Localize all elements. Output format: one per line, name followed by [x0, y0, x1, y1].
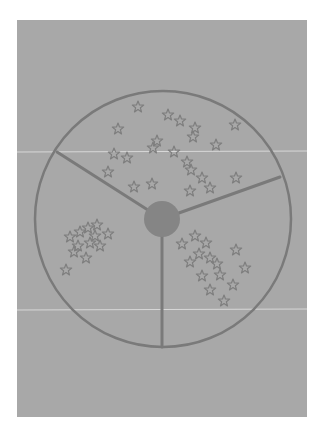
star-icon	[229, 119, 240, 130]
star-icon	[218, 295, 229, 306]
star-icon	[94, 240, 105, 251]
star-icon	[146, 178, 157, 189]
star-icon	[151, 135, 162, 146]
sector-lower-left-stars	[60, 219, 113, 275]
center-hub	[144, 201, 180, 237]
sector-diagram	[0, 0, 329, 436]
spoke-upper-left	[57, 152, 162, 219]
star-icon	[189, 230, 200, 241]
star-icon	[204, 252, 215, 263]
star-icon	[230, 244, 241, 255]
star-icon	[187, 131, 198, 142]
star-icon	[121, 152, 132, 163]
star-icon	[176, 238, 187, 249]
star-icon	[196, 270, 207, 281]
star-icon	[204, 182, 215, 193]
star-icon	[132, 101, 143, 112]
star-icon	[200, 237, 211, 248]
star-icon	[174, 115, 185, 126]
star-icon	[184, 256, 195, 267]
star-icon	[102, 228, 113, 239]
star-icon	[112, 123, 123, 134]
star-icon	[128, 181, 139, 192]
star-icon	[64, 231, 75, 242]
sector-top-stars	[102, 101, 241, 196]
star-icon	[227, 279, 238, 290]
star-icon	[68, 246, 79, 257]
sector-lower-right-stars	[176, 230, 250, 306]
spoke-right	[162, 177, 280, 219]
star-icon	[102, 166, 113, 177]
star-icon	[162, 109, 173, 120]
star-icon	[91, 219, 102, 230]
star-icon	[108, 148, 119, 159]
star-icon	[210, 139, 221, 150]
star-icon	[80, 252, 91, 263]
spokes	[57, 152, 280, 347]
star-icon	[184, 185, 195, 196]
star-icon	[214, 269, 225, 280]
star-icon	[185, 164, 196, 175]
star-icon	[60, 264, 71, 275]
star-icon	[230, 172, 241, 183]
star-icon	[196, 172, 207, 183]
star-icon	[193, 248, 204, 259]
scan-line	[17, 151, 307, 152]
star-icon	[189, 122, 200, 133]
star-icon	[239, 262, 250, 273]
star-icon	[204, 284, 215, 295]
